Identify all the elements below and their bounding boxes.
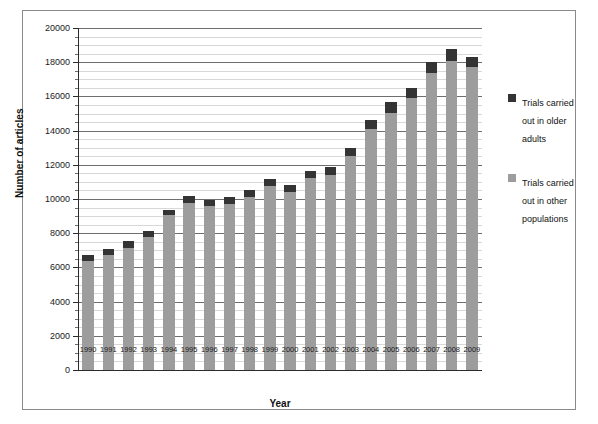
x-tick-label: 1997 [219,345,241,354]
legend-item[interactable]: Trials carried out in other populations [508,172,578,226]
bar-segment-older-adults[interactable] [163,210,175,215]
bar-segment-other-populations[interactable] [345,156,357,370]
x-tick-label: 1998 [239,345,261,354]
bar-segment-older-adults[interactable] [466,57,478,67]
x-tick-label: 1990 [77,345,99,354]
bar-segment-older-adults[interactable] [365,120,377,129]
bar-column[interactable] [385,28,397,370]
x-tick-label: 2001 [299,345,321,354]
y-tick-label: 0 [65,365,70,375]
bar-column[interactable] [183,28,195,370]
bar-segment-older-adults[interactable] [284,185,296,192]
bar-segment-other-populations[interactable] [426,73,438,370]
x-tick-label: 2005 [380,345,402,354]
bar-column[interactable] [426,28,438,370]
y-tick-label: 12000 [45,160,70,170]
legend-swatch [508,94,516,102]
bar-segment-other-populations[interactable] [365,129,377,370]
bar-segment-older-adults[interactable] [103,249,115,255]
bar-segment-older-adults[interactable] [183,196,195,203]
x-tick-label: 1994 [158,345,180,354]
bar-segment-older-adults[interactable] [426,62,438,73]
bar-column[interactable] [365,28,377,370]
y-tick-label: 2000 [50,331,70,341]
x-tick-label: 1995 [178,345,200,354]
x-tick-label: 1991 [97,345,119,354]
bar-segment-older-adults[interactable] [385,102,397,112]
x-tick-label: 2003 [340,345,362,354]
bar-segment-older-adults[interactable] [204,200,216,206]
bar-column[interactable] [82,28,94,370]
bar-segment-older-adults[interactable] [123,241,135,248]
x-tick-label: 2000 [279,345,301,354]
y-tick-label: 18000 [45,57,70,67]
bar-segment-other-populations[interactable] [264,186,276,370]
x-tick-label: 2008 [441,345,463,354]
y-tick-label: 8000 [50,228,70,238]
y-tick-label: 4000 [50,297,70,307]
bar-segment-other-populations[interactable] [466,67,478,370]
y-tick-label: 6000 [50,262,70,272]
x-tick-label: 1992 [118,345,140,354]
bar-column[interactable] [466,28,478,370]
bar-segment-older-adults[interactable] [345,148,357,157]
legend-item[interactable]: Trials carried out in older adults [508,92,578,146]
bar-segment-older-adults[interactable] [143,231,155,238]
legend-label: Trials carried out in other populations [522,178,574,224]
y-tick-label: 16000 [45,91,70,101]
x-tick-label: 1993 [138,345,160,354]
bar-segment-older-adults[interactable] [446,49,458,61]
bar-segment-older-adults[interactable] [325,167,337,175]
x-tick-label: 2004 [360,345,382,354]
x-axis-line [78,370,482,371]
bar-column[interactable] [264,28,276,370]
bar-segment-older-adults[interactable] [244,190,256,197]
bar-column[interactable] [224,28,236,370]
bar-segment-other-populations[interactable] [325,175,337,370]
x-axis-title: Year [0,398,560,409]
bar-column[interactable] [103,28,115,370]
bar-column[interactable] [244,28,256,370]
chart-figure: 0200040006000800010000120001400016000180… [0,0,598,424]
x-tick-label: 2002 [320,345,342,354]
x-tick-label: 2006 [400,345,422,354]
x-tick-label: 1996 [198,345,220,354]
bar-segment-older-adults[interactable] [406,88,418,98]
y-tick-label: 20000 [45,23,70,33]
bar-segment-other-populations[interactable] [305,178,317,370]
bar-segment-other-populations[interactable] [406,98,418,370]
bar-column[interactable] [305,28,317,370]
bar-segment-older-adults[interactable] [264,179,276,187]
y-tick-label: 10000 [45,194,70,204]
bar-series-group [78,28,482,370]
bar-column[interactable] [345,28,357,370]
bar-column[interactable] [163,28,175,370]
x-tick-label: 2009 [461,345,483,354]
y-axis-title: Number of articles [14,108,25,198]
bar-column[interactable] [325,28,337,370]
y-tick-label: 14000 [45,126,70,136]
bar-segment-older-adults[interactable] [224,197,236,204]
bar-column[interactable] [406,28,418,370]
bar-segment-other-populations[interactable] [385,113,397,370]
x-tick-label: 1999 [259,345,281,354]
legend-swatch [508,174,516,182]
bar-column[interactable] [284,28,296,370]
bar-segment-older-adults[interactable] [305,171,317,179]
bar-column[interactable] [143,28,155,370]
bar-segment-other-populations[interactable] [284,192,296,370]
bar-column[interactable] [446,28,458,370]
bar-column[interactable] [123,28,135,370]
bar-segment-other-populations[interactable] [446,61,458,371]
bar-column[interactable] [204,28,216,370]
chart-legend: Trials carried out in older adultsTrials… [508,92,578,252]
bar-segment-older-adults[interactable] [82,255,94,261]
x-tick-label: 2007 [421,345,443,354]
legend-label: Trials carried out in older adults [522,98,574,144]
